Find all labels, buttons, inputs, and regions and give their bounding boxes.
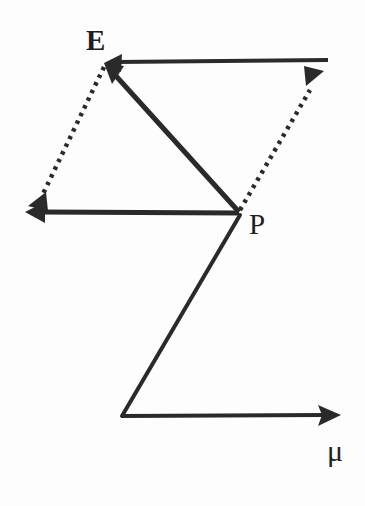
dotted-p-to-upper-right-line <box>240 90 310 210</box>
axis-label-mu: μ <box>327 436 343 466</box>
dotted-e-to-left-line <box>42 67 104 196</box>
vector-diagram-figure: E P μ <box>0 0 365 506</box>
top-horizontal-line <box>116 60 328 62</box>
diagram-canvas <box>0 0 365 506</box>
middle-horizontal-line <box>41 212 239 213</box>
z-diagonal-line <box>122 215 240 416</box>
diagonal-p-to-e-line <box>116 76 239 212</box>
point-label-p: P <box>249 210 265 239</box>
point-label-e: E <box>86 26 105 55</box>
dotted-e-to-left-arrowhead-icon <box>28 192 48 211</box>
dotted-p-to-upper-right-arrowhead-icon <box>304 66 324 86</box>
mu-axis-line <box>121 415 322 416</box>
